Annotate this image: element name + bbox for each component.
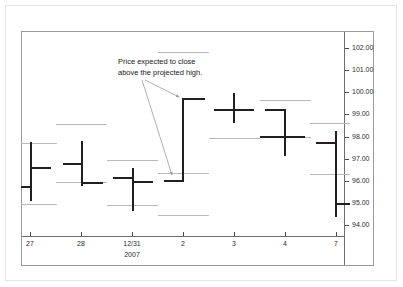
projected-high-line-jan-7 — [310, 123, 350, 124]
projected-high-line-dec-28 — [56, 124, 107, 125]
price-bar-stem-jan-4 — [284, 109, 286, 156]
x-tick-mark — [234, 232, 235, 236]
open-tick-jan-3 — [214, 109, 234, 111]
x-tick-label-7: 7 — [334, 240, 338, 248]
open-tick-dec-27 — [21, 186, 31, 188]
y-tick-label: 102.00 — [352, 44, 373, 52]
y-tick-label: 95.00 — [352, 199, 370, 207]
x-axis-line — [22, 236, 344, 237]
x-tick-label-28: 28 — [77, 240, 85, 248]
price-bar-stem-dec-27 — [30, 142, 32, 201]
projected-low-line-jan-7 — [310, 174, 350, 175]
x-tick-label-27: 27 — [26, 240, 34, 248]
x-tick-label-1231: 12/31 — [123, 240, 141, 248]
open-tick-jan-7 — [316, 142, 336, 144]
y-tick-label: 101.00 — [352, 66, 373, 74]
y-tick-mark — [345, 48, 349, 49]
annotation-text-block: Price expected to close above the projec… — [118, 57, 202, 78]
projected-low-line-jan-2 — [158, 215, 209, 216]
x-axis-year-label: 2007 — [124, 251, 140, 258]
y-tick-label: 94.00 — [352, 221, 370, 229]
y-axis-line — [344, 32, 345, 265]
y-tick-mark — [345, 114, 349, 115]
close-tick-dec-27 — [31, 167, 51, 169]
x-tick-mark — [81, 232, 82, 236]
projected-high-line-dec-27 — [21, 143, 57, 144]
y-tick-label: 98.00 — [352, 133, 370, 141]
x-tick-mark — [336, 232, 337, 236]
close-tick-jan-4 — [260, 136, 305, 138]
y-tick-label: 96.00 — [352, 177, 370, 185]
open-tick-jan-4 — [265, 109, 285, 111]
y-tick-mark — [345, 225, 349, 226]
open-tick-dec-28 — [63, 163, 82, 165]
open-tick-jan-2 — [164, 180, 183, 182]
projected-low-line-jan-3 — [209, 138, 260, 139]
x-tick-mark — [132, 232, 133, 236]
x-tick-label-4: 4 — [283, 240, 287, 248]
close-tick-jan-7 — [336, 203, 350, 205]
y-tick-label: 99.00 — [352, 110, 370, 118]
x-tick-mark — [285, 232, 286, 236]
close-tick-dec-31 — [133, 181, 153, 183]
chart-plot-area: 102.00 101.00 100.00 99.00 98.00 97.00 9… — [0, 0, 403, 287]
x-tick-mark — [30, 232, 31, 236]
price-bar-stem-dec-31 — [132, 168, 134, 211]
x-tick-mark — [183, 232, 184, 236]
projected-low-line-dec-27 — [21, 204, 57, 205]
y-tick-mark — [345, 70, 349, 71]
x-tick-label-3: 3 — [232, 240, 236, 248]
projected-high-line-jan-4 — [260, 100, 311, 101]
open-tick-dec-31 — [113, 177, 133, 179]
price-bar-stem-jan-3 — [233, 93, 235, 123]
annotation-arrows — [0, 0, 403, 287]
annotation-line-1: Price expected to close — [118, 57, 202, 68]
y-tick-mark — [345, 181, 349, 182]
arrow-to-close-tick-jan-2 — [145, 80, 179, 97]
close-tick-jan-3 — [234, 109, 254, 111]
projected-high-line-dec-31 — [107, 160, 158, 161]
y-tick-mark — [345, 159, 349, 160]
y-tick-label: 97.00 — [352, 155, 370, 163]
annotation-line-2: above the projected high. — [118, 68, 202, 79]
close-tick-jan-2 — [183, 98, 205, 100]
close-tick-dec-28 — [82, 182, 103, 184]
x-tick-label-2: 2 — [181, 240, 185, 248]
projected-high-line-jan-2 — [158, 52, 209, 53]
y-tick-mark — [345, 137, 349, 138]
y-tick-mark — [345, 92, 349, 93]
y-tick-label: 100.00 — [352, 88, 373, 96]
price-bar-stem-jan-2 — [182, 98, 184, 182]
chart-page: 102.00 101.00 100.00 99.00 98.00 97.00 9… — [0, 0, 403, 287]
